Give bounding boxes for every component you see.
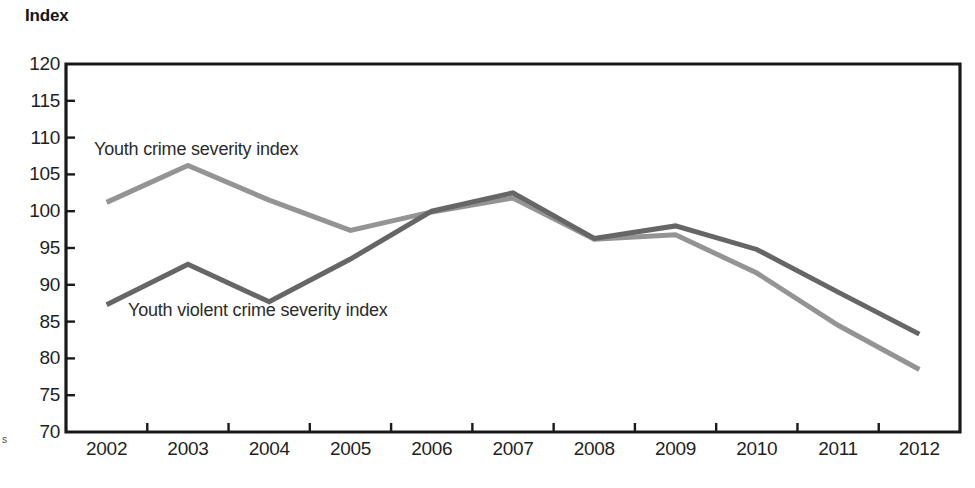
data-series-group	[107, 166, 920, 370]
plot-frame	[66, 64, 960, 432]
series-line-youth-crime-severity-index	[107, 166, 920, 370]
chart-container: Index s 120115110105100959085807570 2002…	[0, 0, 975, 488]
series-label-youth-violent-crime-severity-index: Youth violent crime severity index	[128, 300, 388, 321]
series-label-youth-crime-severity-index: Youth crime severity index	[94, 139, 298, 160]
plot-area	[0, 0, 975, 488]
frame-rect	[66, 64, 960, 432]
